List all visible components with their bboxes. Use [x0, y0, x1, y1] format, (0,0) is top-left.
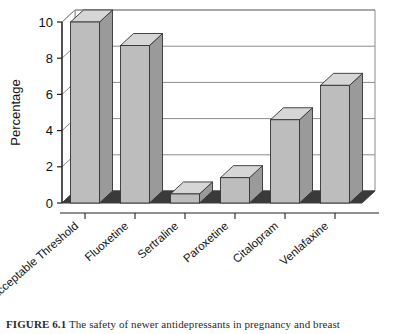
y-axis-title: Percentage: [8, 79, 23, 146]
x-category-label: Sertraline: [135, 219, 180, 260]
bar-paroxetine: [221, 166, 263, 203]
x-category-label: Acceptable Threshold: [0, 219, 80, 301]
bar-chart: 0246810 Acceptable ThresholdFluoxetineSe…: [0, 0, 412, 334]
figure-caption: FIGURE 6.1 The safety of newer antidepre…: [6, 318, 410, 331]
y-axis-tick-labels: 0246810: [39, 15, 53, 211]
figure-caption-label: FIGURE 6.1: [6, 318, 66, 330]
y-tick-label: 0: [46, 196, 53, 211]
bar-fluoxetine: [121, 34, 163, 203]
x-category-label: Paroxetine: [181, 219, 230, 264]
x-category-label: Fluoxetine: [82, 219, 130, 263]
x-axis-category-labels: Acceptable ThresholdFluoxetineSertraline…: [0, 219, 330, 301]
bar-venlafaxine: [321, 73, 363, 203]
y-tick-label: 2: [46, 159, 53, 174]
y-tick-label: 8: [46, 51, 53, 66]
y-tick-label: 10: [39, 15, 53, 30]
y-tick-label: 4: [46, 123, 53, 138]
y-tick-label: 6: [46, 87, 53, 102]
bar-citalopram: [271, 108, 313, 203]
bar-acceptable-threshold: [71, 10, 113, 203]
figure-container: 0246810 Acceptable ThresholdFluoxetineSe…: [0, 0, 412, 334]
x-category-label: Citalopram: [230, 219, 280, 265]
figure-caption-text: The safety of newer antidepressants in p…: [69, 318, 340, 330]
x-category-label: Venlafaxine: [278, 219, 331, 267]
